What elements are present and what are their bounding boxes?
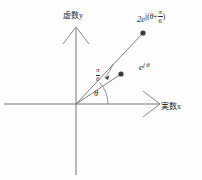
angle-label-theta: θ bbox=[94, 89, 98, 98]
label-2e-paren-close: ) bbox=[163, 12, 166, 21]
figure-canvas: 虚数y 実数x 2ej(θ+π6) ej θ θ π6 bbox=[0, 0, 202, 180]
real-axis-label-jp: 実数 bbox=[161, 102, 177, 111]
vector-2e-line bbox=[76, 33, 143, 104]
label-2e-frac-numerator: π bbox=[158, 9, 163, 17]
axis-group bbox=[4, 27, 160, 175]
label-2e-exponent: j(θ+π6) bbox=[145, 10, 165, 25]
real-axis-label: 実数x bbox=[161, 103, 181, 111]
point-label-e-j-theta: ej θ bbox=[139, 63, 150, 72]
point-marker-e bbox=[118, 71, 123, 76]
pi6-denominator: 6 bbox=[96, 76, 100, 84]
imaginary-axis-label-var: y bbox=[79, 11, 83, 20]
complex-plane-diagram bbox=[0, 0, 202, 180]
real-axis-label-var: x bbox=[177, 102, 181, 111]
vector-group bbox=[76, 33, 143, 104]
pi6-arrowhead bbox=[105, 75, 110, 80]
point-label-2e-j-theta-plus-pi-over-6: 2ej(θ+π6) bbox=[137, 13, 165, 28]
pi6-fraction: π6 bbox=[96, 67, 100, 83]
imaginary-axis-label: 虚数y bbox=[63, 12, 83, 20]
label-e-j: j bbox=[143, 61, 145, 69]
label-e-exponent: j θ bbox=[143, 61, 150, 69]
angle-label-pi-over-6: π6 bbox=[96, 67, 100, 83]
label-2e-fraction: π6 bbox=[158, 9, 163, 24]
imaginary-axis-label-jp: 虚数 bbox=[63, 11, 79, 20]
label-2e-base: 2e bbox=[137, 14, 145, 24]
label-e-theta: θ bbox=[146, 61, 149, 69]
point-marker-2e bbox=[140, 30, 145, 35]
label-2e-frac-denominator: 6 bbox=[158, 17, 163, 24]
